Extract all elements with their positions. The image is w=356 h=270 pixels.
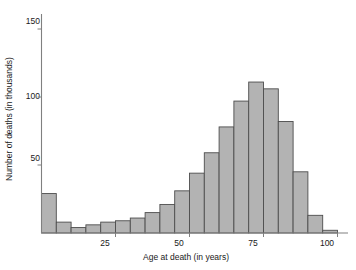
histogram-bar bbox=[86, 225, 101, 233]
bars-group bbox=[42, 82, 338, 233]
histogram-bar bbox=[56, 222, 71, 233]
histogram-bar bbox=[204, 153, 219, 233]
histogram-bar bbox=[101, 222, 116, 233]
histogram-bar bbox=[130, 218, 145, 233]
histogram-bar bbox=[175, 191, 190, 233]
histogram-bar bbox=[234, 101, 249, 233]
histogram-bar bbox=[249, 82, 264, 233]
histogram-chart: Number of deaths (in thousands) 150 100 … bbox=[0, 0, 356, 270]
histogram-bar bbox=[308, 215, 323, 233]
plot-area bbox=[0, 0, 356, 270]
histogram-bar bbox=[145, 213, 160, 233]
histogram-bar bbox=[264, 89, 279, 233]
histogram-bar bbox=[293, 172, 308, 233]
histogram-bar bbox=[116, 221, 131, 233]
histogram-bar bbox=[71, 228, 86, 233]
histogram-bar bbox=[160, 204, 175, 233]
histogram-bar bbox=[42, 194, 57, 233]
histogram-bar bbox=[190, 173, 205, 233]
histogram-bar bbox=[278, 121, 293, 233]
histogram-bar bbox=[219, 127, 234, 233]
